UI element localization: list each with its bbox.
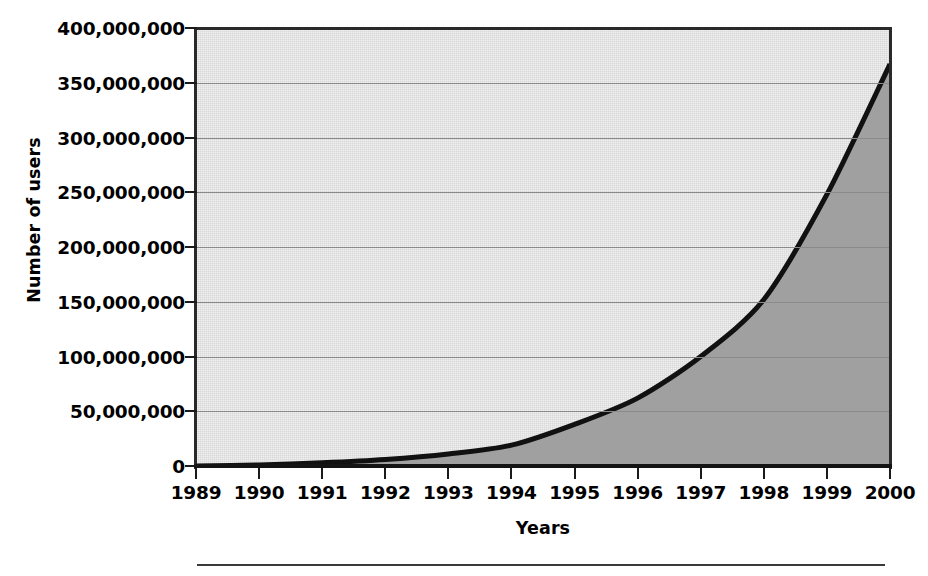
y-axis-tick-label: 0 [22, 456, 185, 477]
y-axis-tick-mark [185, 82, 197, 84]
y-axis-tick-label: 300,000,000 [22, 127, 185, 148]
x-axis-tick-mark [321, 468, 323, 479]
x-axis-tick-mark [763, 468, 765, 479]
x-axis-tick-mark [258, 468, 260, 479]
y-axis-tick-mark [185, 27, 197, 29]
x-axis-tick-mark [574, 468, 576, 479]
plot-right-border [889, 27, 892, 469]
x-axis-tick-mark [195, 468, 197, 479]
horizontal-gridline [196, 247, 890, 248]
bottom-horizontal-rule [197, 564, 885, 566]
x-axis-tick-mark [637, 468, 639, 479]
y-axis-tick-mark [185, 137, 197, 139]
y-axis-tick-label: 350,000,000 [22, 72, 185, 93]
x-axis-tick-mark [826, 468, 828, 479]
horizontal-gridline [196, 357, 890, 358]
x-axis-tick-mark [700, 468, 702, 479]
chart-container: Number of users 050,000,000100,000,00015… [0, 0, 928, 576]
y-axis-tick-label: 250,000,000 [22, 182, 185, 203]
horizontal-gridline [196, 83, 890, 84]
plot-top-border [196, 27, 892, 30]
x-axis-tick-mark [889, 468, 891, 479]
y-axis-tick-mark [185, 191, 197, 193]
x-axis-tick-mark [447, 468, 449, 479]
plot-area [196, 28, 890, 466]
x-axis-title: Years [196, 518, 890, 538]
horizontal-gridline [196, 138, 890, 139]
x-axis-tick-label: 2000 [845, 482, 928, 503]
y-axis-tick-label: 50,000,000 [22, 401, 185, 422]
x-axis-tick-mark [384, 468, 386, 479]
horizontal-gridline [196, 192, 890, 193]
y-axis-tick-label: 200,000,000 [22, 237, 185, 258]
y-axis-tick-mark [185, 356, 197, 358]
y-axis-tick-mark [185, 465, 197, 467]
plot-left-border [194, 27, 197, 469]
x-axis-tick-mark [510, 468, 512, 479]
y-axis-tick-label: 150,000,000 [22, 291, 185, 312]
y-axis-tick-mark [185, 301, 197, 303]
y-axis-tick-mark [185, 410, 197, 412]
y-axis-tick-label: 100,000,000 [22, 346, 185, 367]
plot-baseline [194, 464, 892, 468]
y-axis-tick-mark [185, 246, 197, 248]
y-axis-tick-label: 400,000,000 [22, 18, 185, 39]
horizontal-gridline [196, 302, 890, 303]
horizontal-gridline [196, 411, 890, 412]
